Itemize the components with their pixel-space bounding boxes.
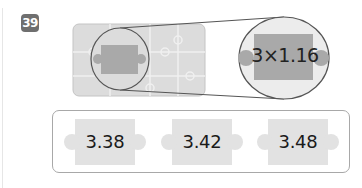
choice-piece-1[interactable]: 3.38 bbox=[75, 119, 135, 165]
choice-piece-3[interactable]: 3.48 bbox=[268, 119, 328, 165]
choice-piece-2[interactable]: 3.42 bbox=[172, 119, 232, 165]
choice-value: 3.38 bbox=[75, 119, 135, 165]
choice-value: 3.42 bbox=[172, 119, 232, 165]
choice-value: 3.48 bbox=[268, 119, 328, 165]
highlighted-piece bbox=[101, 45, 138, 74]
answer-choices-box: 3.38 3.42 3.48 bbox=[52, 110, 350, 173]
magnified-expression: 3×1.16 bbox=[246, 44, 324, 66]
